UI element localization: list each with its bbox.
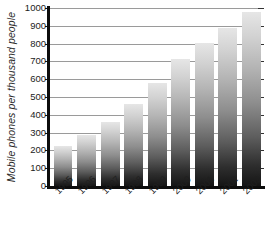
x-axis-tick-labels: 199519961997199819992000200120022003: [50, 189, 262, 232]
bar: [195, 43, 214, 186]
y-tick-label: 700: [14, 57, 46, 67]
y-tick-label: 400: [14, 110, 46, 120]
bar-series: [50, 8, 262, 186]
y-axis-tick-labels: 01002003004005006007008009001000: [14, 8, 46, 186]
y-tick-label: 600: [14, 74, 46, 84]
plot-area: [50, 8, 262, 186]
y-tick-label: 100: [14, 163, 46, 173]
bar: [242, 12, 261, 186]
y-axis-line: [47, 6, 50, 188]
bar: [171, 59, 190, 186]
y-tick-label: 500: [14, 92, 46, 102]
y-tick-label: 0: [14, 181, 46, 191]
y-tick-label: 300: [14, 128, 46, 138]
y-tick-label: 900: [14, 21, 46, 31]
y-tick-label: 800: [14, 39, 46, 49]
y-tick-label: 200: [14, 146, 46, 156]
bar: [124, 104, 143, 186]
bar-chart: Mobile phones per thousand people 010020…: [0, 0, 273, 232]
y-tick-label: 1000: [14, 3, 46, 13]
bar: [218, 28, 237, 186]
bar: [148, 83, 167, 186]
